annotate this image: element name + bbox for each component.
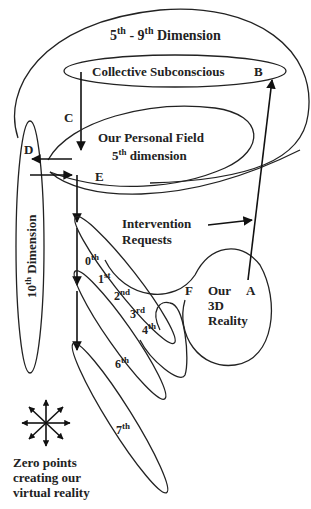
point-b-label: B [254,64,263,79]
intervention-arrow [208,220,252,225]
legend-label-3: virtual reality [13,485,90,500]
intervention-label-2: Requests [122,232,172,247]
point-f-label: F [185,283,193,298]
dim-4-label: 4th [142,321,156,337]
dimensions-diagram: 5th - 9th Dimension Collective Subconsci… [0,0,311,509]
dim-2-label: 2nd [114,287,130,303]
arrow-a-to-b [248,80,272,280]
dim-7-label: 7th [116,421,130,437]
personal-field-label-1: Our Personal Field [98,130,205,145]
legend-label-2: creating our [13,470,81,485]
dim-1-label: 1st [98,270,111,286]
personal-field-ellipse [48,106,254,186]
point-d-label: D [24,142,33,157]
point-c-label: C [64,110,73,125]
tenth-dimension-label: 10th Dimension [23,214,39,298]
outer-dimension-label: 5th - 9th Dimension [110,25,221,43]
dim-6-label: 6th [115,355,129,371]
point-a-label: A [246,283,256,298]
reality-label-3: Reality [208,313,248,328]
reality-label-1: Our [208,283,231,298]
point-e-label: E [95,169,104,184]
eight-arrow-star-icon [22,400,70,446]
reality-label-2: 3D [208,298,224,313]
dim-0-label: 0th [85,252,99,268]
collective-subconscious-label: Collective Subconscious [92,64,225,79]
personal-field-label-2: 5th dimension [112,147,188,163]
legend-label-1: Zero points [13,455,77,470]
intervention-label-1: Intervention [122,216,192,231]
